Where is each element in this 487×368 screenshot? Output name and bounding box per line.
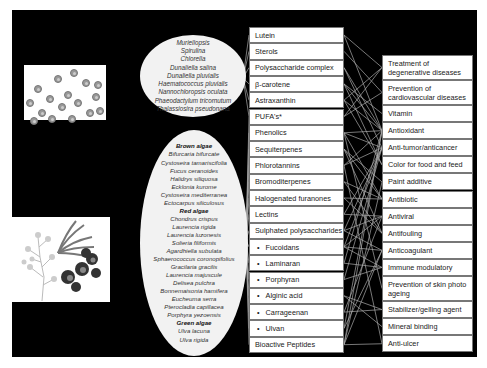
application-label: Antibiotic	[388, 195, 418, 204]
application-label: Paint additive	[388, 177, 432, 186]
seaweed-illustration	[12, 217, 110, 302]
application-box: Antibiotic	[382, 191, 473, 208]
compound-label: Phenolics	[255, 128, 287, 137]
application-box: Prevention of skin photo ageing	[382, 276, 473, 301]
compound-box: Carrageenan	[249, 304, 344, 320]
species-label: Solieria filiformis	[172, 239, 216, 247]
species-label: Cystoseira mediterranea	[161, 191, 227, 199]
application-label: Antioxidant	[388, 126, 424, 135]
compound-label: Sterols	[255, 47, 278, 56]
species-label: Ulva lacuna	[178, 327, 210, 335]
cell-icon	[70, 69, 78, 77]
cell-icon	[54, 75, 62, 83]
cell-icon	[82, 79, 90, 87]
compound-label: Bromoditerpenes	[255, 177, 311, 186]
cell-icon	[30, 117, 38, 125]
compound-box: Sulphated polysaccharides	[249, 223, 344, 239]
application-label: Antiviral	[388, 212, 414, 221]
application-label: Color for food and feed	[388, 160, 463, 169]
species-label: Eucheuma serra	[172, 295, 217, 303]
application-box: Immune modulatory	[382, 259, 473, 276]
compound-box: Halogenated furanones	[249, 190, 344, 206]
application-box: Antifouling	[382, 225, 473, 242]
compound-box: Fucoidans	[249, 239, 344, 255]
compound-box: Astraxanthin	[249, 92, 344, 108]
cell-icon	[68, 115, 76, 123]
cell-icon	[48, 115, 56, 123]
species-label: Nannochloropsis oculata	[159, 88, 228, 96]
compound-label: Polysaccharide complex	[255, 63, 334, 72]
application-box: Anti-ulcer	[382, 335, 473, 352]
species-label: Bonnemaisonia hamifera	[160, 287, 227, 295]
species-label: Gracilaria gracilis	[171, 263, 218, 271]
macroalgae-species-ellipse: Brown algaeBifurcaria bifurcateCystoseir…	[140, 130, 248, 356]
compound-box: Phenolics	[249, 125, 344, 141]
species-label: Cystoseira tamariscifolia	[161, 159, 227, 167]
microalgae-cells-illustration	[24, 65, 106, 120]
application-box: Stabilizer/gelling agent	[382, 301, 473, 318]
application-label: Antifouling	[388, 229, 422, 238]
cell-icon	[64, 91, 72, 99]
compound-label: Laminaran	[266, 259, 300, 268]
cell-icon	[96, 107, 104, 115]
cell-icon	[74, 99, 82, 107]
compound-box: Bioactive Peptides	[249, 337, 344, 353]
species-label: Thalassiosira pseudonana	[156, 105, 230, 113]
compound-label: Carrageenan	[266, 308, 309, 317]
cell-icon	[94, 81, 102, 89]
species-label: Dunaliella salina	[170, 64, 216, 72]
species-label: Haematococcus pluvialis	[158, 80, 227, 88]
species-label: Ectocarpus siliculosus	[164, 199, 224, 207]
application-label: Prevention of skin photo ageing	[388, 280, 472, 298]
compound-box: Ulvan	[249, 320, 344, 336]
species-label: Porphyra yezoensis	[167, 311, 221, 319]
species-label: Agardhiella subulata	[166, 247, 221, 255]
compound-label: Sulphated polysaccharides	[255, 226, 342, 235]
application-label: Prevention of cardiovascular diseases	[388, 84, 472, 102]
compound-box: PUFA's*	[249, 109, 344, 125]
species-label: Delisea pulchra	[173, 279, 215, 287]
compound-box: Lectins	[249, 206, 344, 222]
species-label: Dunaliella pluvialis	[167, 72, 219, 80]
compound-label: Lutein	[255, 31, 275, 40]
species-label: Sphaerococcus coronopifolius	[153, 255, 234, 263]
compound-label: Alginic acid	[266, 291, 303, 300]
application-box: Antioxidant	[382, 122, 473, 139]
application-label: Treatment of degenerative diseases	[388, 59, 472, 77]
compound-box: Lutein	[249, 27, 344, 43]
species-label: Fucus ceranoides	[170, 167, 218, 175]
application-box: Color for food and feed	[382, 156, 473, 173]
cell-icon	[58, 103, 66, 111]
application-label: Immune modulatory	[388, 263, 452, 272]
application-box: Anti-tumor/anticancer	[382, 139, 473, 156]
cell-icon	[86, 109, 94, 117]
application-label: Anti-ulcer	[388, 339, 419, 348]
microalgae-species-ellipse: MuriellopsisSpirulinaChlorellaDunaliella…	[140, 35, 246, 117]
species-label: Pterocladia capillacea	[164, 303, 223, 311]
species-label: Chondrus crispus	[170, 215, 217, 223]
compound-box: Alginic acid	[249, 288, 344, 304]
species-label: Phaeodactylum tricornutum	[155, 97, 232, 105]
application-label: Anti-tumor/anticancer	[388, 143, 457, 152]
application-label: Anticoagulant	[388, 246, 432, 255]
application-box: Anticoagulant	[382, 242, 473, 259]
cell-icon	[26, 99, 34, 107]
application-box: Vitamin	[382, 105, 473, 122]
compound-label: Halogenated furanones	[255, 194, 331, 203]
compound-label: Porphyran	[266, 275, 300, 284]
application-box: Antiviral	[382, 208, 473, 225]
algae-group-header: Red algae	[180, 207, 209, 215]
species-label: Laurencia rigida	[172, 223, 215, 231]
compound-box: Laminaran	[249, 255, 344, 271]
cell-icon	[38, 109, 46, 117]
species-label: Laurencia majuscule	[166, 271, 222, 279]
application-box: Prevention of cardiovascular diseases	[382, 80, 473, 105]
compound-label: Lectins	[255, 210, 278, 219]
compound-label: Fucoidans	[266, 243, 300, 252]
species-label: Chlorella	[181, 55, 206, 63]
compound-label: PUFA's*	[255, 112, 282, 121]
seaweed-icon	[12, 217, 110, 302]
species-label: Halidrys siliquosa	[170, 175, 217, 183]
compound-label: Astraxanthin	[255, 96, 296, 105]
compound-box: Bromoditerpenes	[249, 174, 344, 190]
